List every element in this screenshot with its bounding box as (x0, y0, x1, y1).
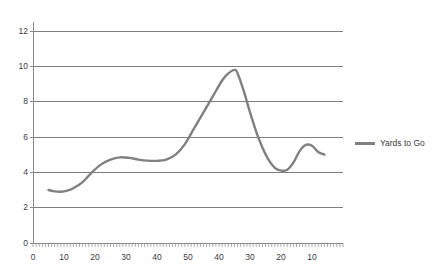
x-axis-tick-label: 20 (267, 253, 295, 262)
y-axis-tick-label: 10 (6, 62, 28, 71)
x-axis-minor-ticks (33, 243, 343, 247)
legend-line-swatch (355, 142, 375, 145)
series-line (49, 70, 325, 192)
gridlines (33, 31, 343, 208)
y-axis-tick-label: 8 (6, 97, 28, 106)
x-axis-tick-label: 30 (112, 253, 140, 262)
x-axis-tick-label: 20 (81, 253, 109, 262)
y-axis-tick-label: 0 (6, 239, 28, 248)
chart-container: 024681012 0102030405040302010 Yards to G… (0, 0, 443, 276)
chart-plot-area (0, 0, 443, 276)
x-axis-tick-label: 50 (174, 253, 202, 262)
x-axis-tick-label: 10 (50, 253, 78, 262)
x-axis-tick-label: 30 (236, 253, 264, 262)
y-axis-tick-label: 4 (6, 168, 28, 177)
data-series-lines (49, 70, 325, 192)
chart-legend: Yards to Go (355, 139, 425, 148)
x-axis-tick-label: 10 (298, 253, 326, 262)
y-axis-tick-label: 2 (6, 203, 28, 212)
x-axis-tick-label: 40 (205, 253, 233, 262)
axes (30, 22, 343, 243)
x-axis-tick-label: 0 (19, 253, 47, 262)
y-axis-tick-label: 6 (6, 133, 28, 142)
legend-item-label: Yards to Go (380, 139, 425, 148)
x-axis-tick-label: 40 (143, 253, 171, 262)
y-axis-tick-label: 12 (6, 27, 28, 36)
